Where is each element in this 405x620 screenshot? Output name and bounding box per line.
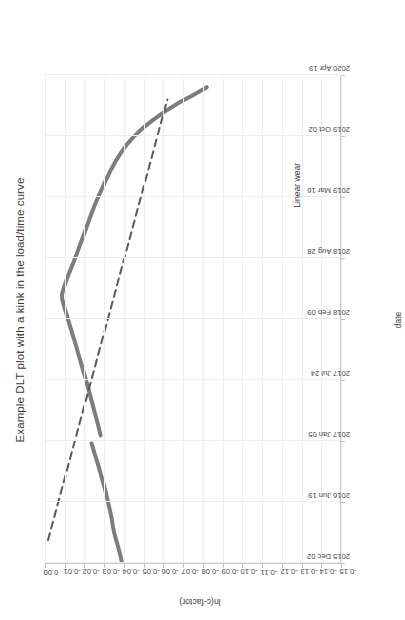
x-axis-tick-mark [341, 563, 345, 564]
gridline-vertical [45, 318, 340, 319]
y-axis-tick-label: -0.01 [63, 568, 80, 577]
y-axis-tick-label: -0.03 [103, 568, 120, 577]
gridline-vertical [45, 135, 340, 136]
rotated-figure-wrapper: Example DLT plot with a kink in the load… [0, 0, 405, 620]
x-axis-title: date [393, 76, 403, 564]
gridline-horizontal [321, 76, 322, 563]
x-axis-tick-label: 2020 Apr 19 [309, 64, 350, 73]
y-axis-tick-label: -0.06 [162, 568, 179, 577]
y-axis-tick-label: -0.07 [182, 568, 199, 577]
gridline-vertical [45, 501, 340, 502]
x-axis-tick-mark [341, 258, 345, 259]
y-axis-tick-label: -0.14 [320, 568, 337, 577]
gridline-horizontal [203, 76, 204, 563]
gridline-horizontal [124, 76, 125, 563]
x-axis-tick-label: 2015 Dec 02 [307, 552, 350, 561]
gridline-horizontal [84, 76, 85, 563]
chart-title: Example DLT plot with a kink in the load… [14, 0, 26, 620]
gridline-horizontal [282, 76, 283, 563]
y-axis-tick-label: -0.09 [221, 568, 238, 577]
series-layer [45, 75, 341, 563]
x-axis-tick-label: 2018 Aug 28 [307, 247, 350, 256]
gridline-horizontal [163, 76, 164, 563]
gridline-horizontal [183, 76, 184, 563]
x-axis: 2015 Dec 022016 Jun 192017 Jan 052017 Ju… [341, 76, 405, 564]
x-axis-tick-mark [341, 380, 345, 381]
x-axis-tick-mark [341, 197, 345, 198]
y-axis-tick-label: -0.15 [340, 568, 357, 577]
x-axis-tick-label: 2019 Oct 02 [309, 125, 350, 134]
x-axis-tick-label: 2018 Feb 09 [307, 308, 350, 317]
y-axis-tick-label: -0.04 [122, 568, 139, 577]
y-axis: 0.00-0.01-0.02-0.03-0.04-0.05-0.06-0.07-… [45, 564, 345, 620]
gridline-horizontal [65, 76, 66, 563]
y-axis-tick-label: -0.13 [300, 568, 317, 577]
x-axis-tick-label: 2019 Mar 16 [307, 186, 350, 195]
x-axis-tick-mark [341, 502, 345, 503]
x-axis-tick-mark [341, 441, 345, 442]
y-axis-tick-label: -0.02 [83, 568, 100, 577]
gridline-horizontal [262, 76, 263, 563]
y-axis-tick-label: -0.05 [142, 568, 159, 577]
x-axis-tick-mark [341, 75, 345, 76]
gridline-horizontal [242, 76, 243, 563]
y-axis-tick-label: -0.10 [241, 568, 258, 577]
gridline-horizontal [45, 76, 46, 563]
chart-figure: Example DLT plot with a kink in the load… [0, 0, 405, 620]
gridline-horizontal [302, 76, 303, 563]
series-line-linear-wear [48, 99, 167, 540]
gridline-vertical [45, 562, 340, 563]
gridline-vertical [45, 440, 340, 441]
gridline-horizontal [104, 76, 105, 563]
series-line-segment-1-pre-kink [92, 443, 122, 563]
plot-area: Linear wear [45, 76, 341, 564]
x-axis-tick-mark [341, 319, 345, 320]
y-axis-tick-label: -0.11 [261, 568, 278, 577]
y-axis-tick-label: -0.08 [201, 568, 218, 577]
gridline-vertical [45, 257, 340, 258]
gridline-vertical [45, 379, 340, 380]
y-axis-tick-label: -0.12 [280, 568, 297, 577]
y-axis-title: ln(c-factor) [50, 597, 350, 607]
gridline-vertical [45, 74, 340, 75]
linear-wear-annotation: Linear wear [292, 163, 302, 208]
x-axis-tick-label: 2017 Jul 24 [311, 369, 350, 378]
x-axis-tick-mark [341, 136, 345, 137]
gridline-horizontal [223, 76, 224, 563]
x-axis-tick-label: 2016 Jun 19 [308, 491, 350, 500]
y-axis-tick-label: 0.00 [44, 568, 59, 577]
gridline-horizontal [144, 76, 145, 563]
x-axis-tick-label: 2017 Jan 05 [308, 430, 350, 439]
